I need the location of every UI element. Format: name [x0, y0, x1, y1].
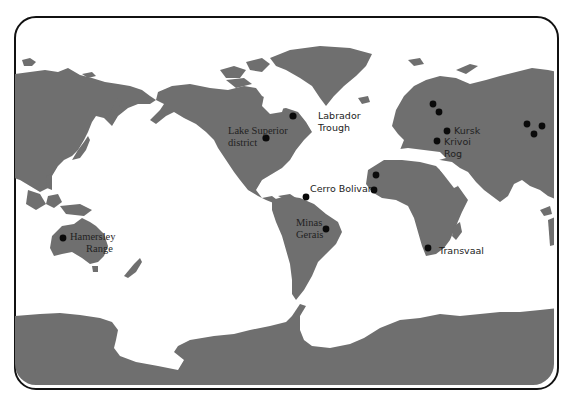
- marker-siberia-1: [524, 121, 531, 128]
- landmass-greenland: [270, 46, 372, 106]
- label-minas-gerais: Minas Gerais: [296, 217, 323, 241]
- marker-transvaal: [425, 245, 432, 252]
- label-transvaal: Transvaal: [439, 245, 484, 257]
- landmass-south-america: [272, 196, 342, 300]
- label-cerro-bolivar: Cerro Bolivar: [310, 183, 372, 195]
- world-map: [0, 0, 572, 401]
- marker-kursk: [444, 128, 451, 135]
- landmass-antarctica: [14, 308, 558, 390]
- label-hamersley-range: Hamersley Range: [70, 231, 115, 255]
- marker-minas-gerais: [323, 226, 330, 233]
- marker-scandinavia-2: [436, 109, 443, 116]
- marker-siberia-2: [539, 123, 546, 130]
- label-labrador-trough: Labrador Trough: [318, 110, 361, 134]
- marker-west-africa-1: [373, 172, 380, 179]
- label-lake-superior: Lake Superior district: [228, 125, 288, 149]
- marker-cerro-bolivar: [303, 194, 310, 201]
- marker-labrador: [289, 112, 296, 119]
- marker-scandinavia-1: [430, 101, 437, 108]
- marker-krivoi-rog: [434, 138, 441, 145]
- label-krivoi-rog: Krivoi Rog: [444, 136, 471, 160]
- marker-siberia-3: [531, 131, 538, 138]
- landmass-africa: [366, 160, 468, 256]
- landmass-east-asia: [14, 68, 156, 192]
- marker-hamersley: [60, 235, 67, 242]
